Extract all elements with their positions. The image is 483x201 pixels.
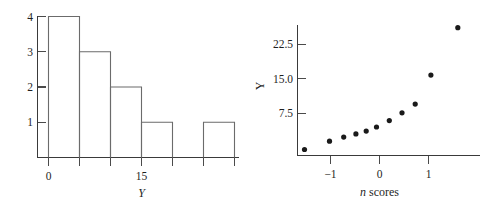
histogram-x-tick-label-15: 15: [136, 170, 148, 182]
scatter-y-tick-label-7-5: 7.5: [279, 107, 294, 119]
scatter-points: [302, 25, 461, 152]
histogram-bar-1: [49, 17, 80, 158]
scatter-x-axis-title: n scores: [360, 185, 399, 199]
scatter-point: [341, 135, 346, 140]
histogram-y-tick-label-4: 4: [27, 11, 33, 23]
scatter-x-axis-title-suffix: scores: [366, 185, 399, 199]
scatter-point: [302, 147, 307, 152]
histogram-bar-3: [111, 87, 142, 158]
histogram-y-tick-label-3: 3: [27, 46, 33, 58]
scatter-point: [399, 110, 404, 115]
scatter-x-ticks: [331, 156, 429, 164]
histogram-x-axis-title: Y: [138, 186, 146, 200]
scatter-point: [455, 25, 460, 30]
histogram-svg: 4 3 2 1 0 15 Y: [0, 0, 242, 201]
histogram-x-axis-title-text: Y: [138, 186, 146, 200]
scatter-x-tick-label-1: 1: [426, 168, 432, 180]
scatter-point: [428, 73, 433, 78]
scatter-point: [364, 129, 369, 134]
scatter-point: [353, 131, 358, 136]
scatter-point: [374, 124, 379, 129]
scatter-panel: 7.5 15.0 22.5 Y −1 0 1: [242, 0, 483, 201]
histogram-y-tick-label-2: 2: [27, 81, 33, 93]
histogram-panel: 4 3 2 1 0 15 Y: [0, 0, 242, 201]
histogram-x-ticks: [49, 158, 235, 166]
scatter-y-tick-label-15-0: 15.0: [273, 73, 293, 85]
figure-root: 4 3 2 1 0 15 Y: [0, 0, 483, 201]
scatter-point: [413, 102, 418, 107]
histogram-bar-4: [142, 122, 173, 157]
scatter-x-tick-label-neg1: −1: [324, 168, 336, 180]
histogram-x-tick-label-0: 0: [46, 170, 52, 182]
scatter-y-axis-title: Y: [253, 81, 267, 90]
scatter-y-ticks: [298, 44, 306, 113]
scatter-svg: 7.5 15.0 22.5 Y −1 0 1: [242, 0, 483, 201]
histogram-y-tick-label-1: 1: [27, 116, 33, 128]
histogram-y-ticks: [38, 17, 46, 123]
scatter-x-tick-label-0: 0: [377, 168, 383, 180]
scatter-point: [387, 118, 392, 123]
histogram-bar-2: [80, 52, 111, 158]
scatter-y-tick-label-22-5: 22.5: [273, 38, 293, 50]
histogram-bar-6: [204, 122, 235, 157]
scatter-point: [327, 139, 332, 144]
